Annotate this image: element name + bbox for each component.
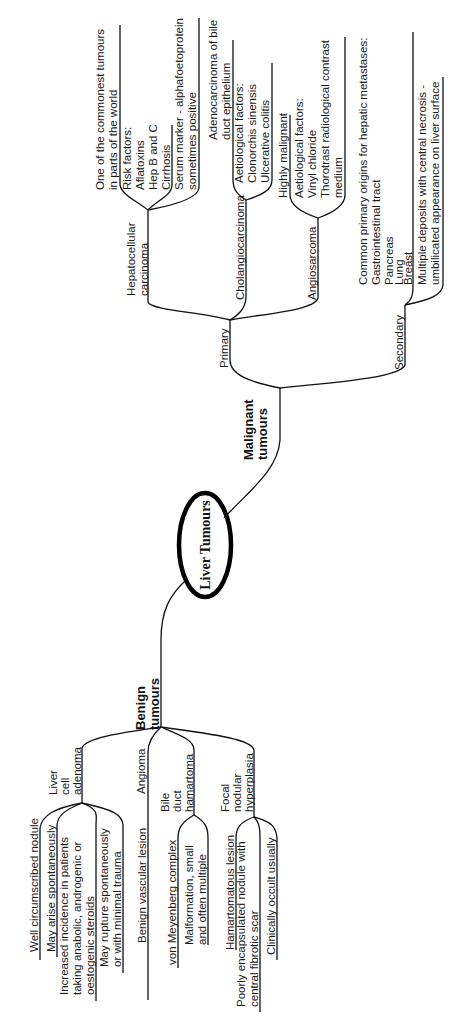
svg-text:von Meyenberg complex: von Meyenberg complex — [166, 839, 178, 965]
hepatocellular-label-line2: carcinoma — [138, 242, 150, 296]
adenoma-note2: May arise spontaneously — [45, 825, 57, 952]
secondary-note2: Multiple deposits with central necrosis … — [416, 82, 441, 285]
svg-text:May rupture spontaneously: May rupture spontaneously — [98, 828, 110, 967]
mind-map-diagram: Liver Tumours Malignant tumours Primary … — [0, 0, 472, 1034]
svg-text:Well circumscribed nodule: Well circumscribed nodule — [28, 818, 40, 952]
svg-text:Highly malignant: Highly malignant — [277, 112, 289, 198]
svg-text:central fibrotic scar: central fibrotic scar — [248, 910, 260, 1007]
svg-text:and often multiple: and often multiple — [196, 854, 208, 945]
malignant-branch: Malignant tumours Primary Hepatocellular… — [94, 18, 443, 518]
svg-text:or with minimal trauma: or with minimal trauma — [111, 851, 123, 967]
cholangio-label: Cholangiocarcinoma — [234, 195, 246, 300]
svg-text:Risk factors:: Risk factors: — [121, 127, 133, 190]
svg-text:Vinyl chloride: Vinyl chloride — [306, 130, 318, 198]
svg-text:Aflatoxins: Aflatoxins — [134, 140, 146, 190]
secondary-note1: Common primary origins for hepatic metas… — [357, 38, 414, 285]
connector-malignant-secondary — [280, 305, 405, 388]
benign-branch: Benign tumours Liver cell adenoma Well c… — [28, 580, 277, 1012]
svg-text:Multiple deposits with central: Multiple deposits with central necrosis … — [416, 85, 428, 285]
focal-note3: Clinically occult usually — [265, 837, 277, 955]
svg-text:medium: medium — [332, 157, 344, 198]
connector-benign-angioma — [148, 727, 161, 1000]
svg-text:oestogenic steroids: oestogenic steroids — [84, 896, 96, 995]
svg-text:Aetiological factors:: Aetiological factors: — [293, 98, 305, 198]
svg-text:Clonorchis sinensis: Clonorchis sinensis — [246, 84, 258, 183]
svg-text:Aetiological factors:: Aetiological factors: — [233, 83, 245, 183]
root-label: Liver Tumours — [198, 500, 213, 590]
hepato-note2: Risk factors: Aflatoxins Hep B and C Cir… — [121, 124, 172, 190]
svg-text:One of the commonest tumours: One of the commonest tumours — [94, 29, 106, 190]
svg-text:Gastrointestinal tract: Gastrointestinal tract — [370, 179, 382, 285]
focal-label: Focal nodular hyperplasia — [219, 753, 255, 812]
adenoma-note1: Well circumscribed nodule — [28, 818, 40, 952]
adenoma-label: Liver cell adenoma — [47, 746, 83, 795]
svg-text:Poorly encapsulated nodule wit: Poorly encapsulated nodule with — [235, 841, 247, 1007]
svg-text:adenoma: adenoma — [71, 746, 83, 795]
svg-text:Cirrhosis: Cirrhosis — [160, 144, 172, 190]
benign-label-line1: Benign — [133, 686, 148, 730]
svg-text:hamartoma: hamartoma — [183, 753, 195, 812]
angioma-note1: Benign vascular lesion — [136, 828, 148, 943]
hepatocellular-label-line1: Hepatocellular — [125, 222, 137, 296]
svg-text:Malformation, small: Malformation, small — [183, 845, 195, 945]
adenoma-note4: May rupture spontaneously or with minima… — [98, 828, 123, 967]
secondary-label: Secondary — [393, 315, 405, 370]
svg-text:cell: cell — [59, 778, 71, 795]
svg-text:duct: duct — [171, 789, 183, 812]
svg-text:Hep B and C: Hep B and C — [147, 124, 159, 190]
angiosarcoma-label: Angiosarcoma — [306, 226, 318, 300]
hepato-note1: One of the commonest tumours in parts of… — [94, 29, 119, 190]
svg-text:sometimes positive: sometimes positive — [186, 92, 198, 190]
svg-text:Bile: Bile — [159, 793, 171, 812]
connector-benign-adenoma — [82, 727, 161, 803]
svg-text:in parts of the world: in parts of the world — [107, 90, 119, 190]
svg-text:Focal: Focal — [219, 784, 231, 812]
svg-text:Serum marker - alphafoetoprote: Serum marker - alphafoetoprotein — [173, 18, 185, 190]
focal-note2: Poorly encapsulated nodule with central … — [235, 841, 260, 1007]
connector-primary-hepatocellular — [148, 210, 230, 320]
svg-text:May arise spontaneously: May arise spontaneously — [45, 825, 57, 952]
svg-text:Liver: Liver — [47, 770, 59, 795]
connector-malignant-primary — [230, 320, 280, 388]
malignant-label-line1: Malignant — [241, 399, 256, 460]
connector-root-benign — [161, 580, 186, 727]
hepato-note3: Serum marker - alphafoetoprotein sometim… — [173, 18, 198, 190]
adenoma-note3: Increased incidence in patients taking a… — [58, 837, 96, 995]
angioma-label: Angioma — [135, 748, 147, 794]
svg-text:Adenocarcinoma of bile: Adenocarcinoma of bile — [207, 20, 219, 140]
bileduct-note2: Malformation, small and often multiple — [183, 845, 208, 945]
svg-text:Ulcerative colitis: Ulcerative colitis — [259, 100, 271, 183]
svg-text:duct epithelium: duct epithelium — [220, 63, 232, 140]
bileduct-label: Bile duct hamartoma — [159, 753, 195, 812]
svg-text:nodular: nodular — [231, 773, 243, 812]
angio-note1: Highly malignant — [277, 112, 289, 198]
bileduct-note1: von Meyenberg complex — [166, 839, 178, 965]
svg-text:Clinically occult usually: Clinically occult usually — [265, 837, 277, 955]
root-node: Liver Tumours — [179, 493, 231, 597]
angio-note2: Aetiological factors: Vinyl chloride Tho… — [293, 39, 344, 198]
svg-text:taking anabolic, androgenic or: taking anabolic, androgenic or — [71, 841, 83, 995]
svg-text:Breast: Breast — [402, 251, 414, 285]
svg-text:Thorotrast radiological contra: Thorotrast radiological contrast — [319, 39, 331, 198]
primary-label: Primary — [218, 328, 230, 368]
svg-text:Increased incidence in patient: Increased incidence in patients — [58, 837, 70, 995]
malignant-label-line2: tumours — [255, 408, 270, 460]
cholangio-note2: Aetiological factors: Clonorchis sinensi… — [233, 83, 271, 183]
svg-text:Common primary origins for hep: Common primary origins for hepatic metas… — [357, 38, 369, 285]
benign-label-line2: tumours — [147, 678, 162, 730]
cholangio-note1: Adenocarcinoma of bile duct epithelium — [207, 20, 232, 140]
svg-text:umbilicated appearance on live: umbilicated appearance on liver surface — [429, 82, 441, 285]
svg-text:hyperplasia: hyperplasia — [243, 753, 255, 812]
